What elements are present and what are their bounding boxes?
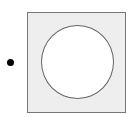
bullet-dot xyxy=(7,59,14,66)
gray-square xyxy=(27,12,126,113)
white-circle xyxy=(41,25,114,99)
